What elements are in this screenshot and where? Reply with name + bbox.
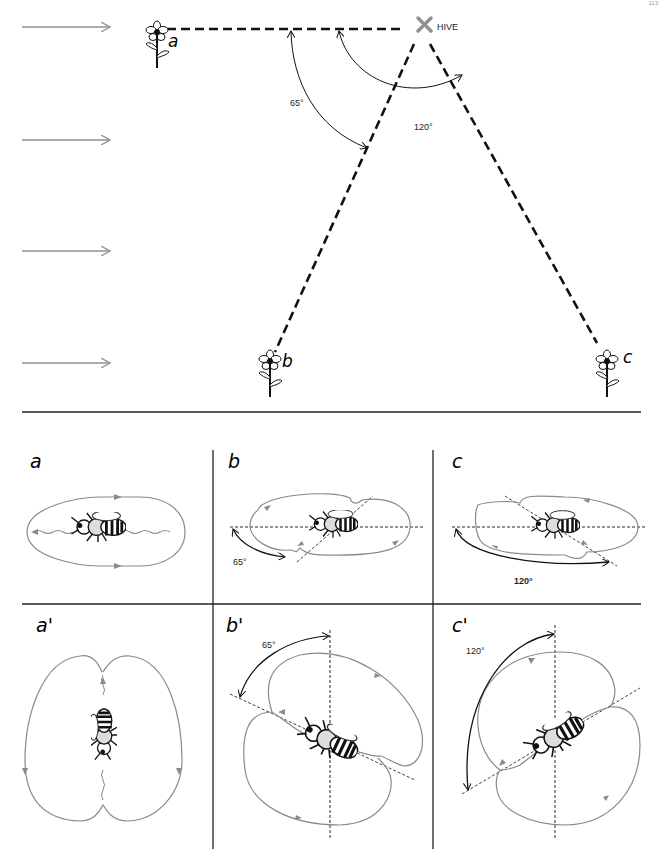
angle-label-120: 120° — [414, 122, 433, 132]
flower-b-icon — [259, 350, 282, 397]
flower-c-icon — [596, 350, 619, 397]
route-to-b — [275, 44, 414, 352]
angle-arc-65 — [240, 636, 329, 697]
panel-label-b: b — [228, 450, 240, 472]
waggle-loop — [478, 652, 615, 770]
bee-icon — [89, 709, 118, 760]
flight-routes — [167, 29, 597, 352]
flower-a-icon — [146, 21, 169, 68]
panel-label-a: a — [30, 450, 42, 472]
panel-label-a-prime: a' — [36, 614, 53, 636]
bee-dance-figure: HIVE 65° 120° a b c a b 65° c — [0, 0, 662, 849]
angle-label-65: 65° — [262, 640, 276, 650]
route-to-c — [430, 44, 597, 343]
panel-label-c: c — [452, 450, 463, 472]
sun-direction-arrows — [22, 27, 110, 363]
angle-label-65: 65° — [233, 557, 247, 567]
dance-panel-c: c 120° — [452, 450, 645, 586]
dance-panel-b-prime: b' 65° — [226, 614, 422, 840]
angle-label-65: 65° — [290, 98, 304, 108]
dance-panel-b: b 65° — [228, 450, 425, 567]
panel-grid — [22, 450, 641, 849]
bee-icon — [531, 511, 580, 539]
angle-arc-120 — [467, 634, 554, 790]
hive-label: HIVE — [437, 22, 458, 32]
flower-label-b: b — [282, 351, 293, 371]
bee-icon — [309, 510, 358, 538]
dance-panel-a: a — [27, 450, 185, 569]
dance-panel-a-prime: a' — [22, 614, 182, 821]
angle-arc-65 — [233, 529, 285, 557]
hive-marker-icon — [418, 18, 431, 31]
angle-label-120: 120° — [466, 646, 485, 656]
angle-arc-65 — [291, 31, 367, 148]
bee-icon — [71, 511, 126, 543]
flower-label-a: a — [168, 31, 178, 51]
bee-icon — [519, 705, 591, 767]
panel-label-c-prime: c' — [452, 614, 468, 636]
dance-panel-c-prime: c' 120° — [452, 614, 640, 840]
panel-label-b-prime: b' — [226, 614, 243, 636]
flower-label-c: c — [623, 347, 633, 367]
angle-label-120: 120° — [514, 576, 533, 586]
bee-icon — [293, 710, 365, 769]
angle-arc-120 — [339, 31, 462, 88]
